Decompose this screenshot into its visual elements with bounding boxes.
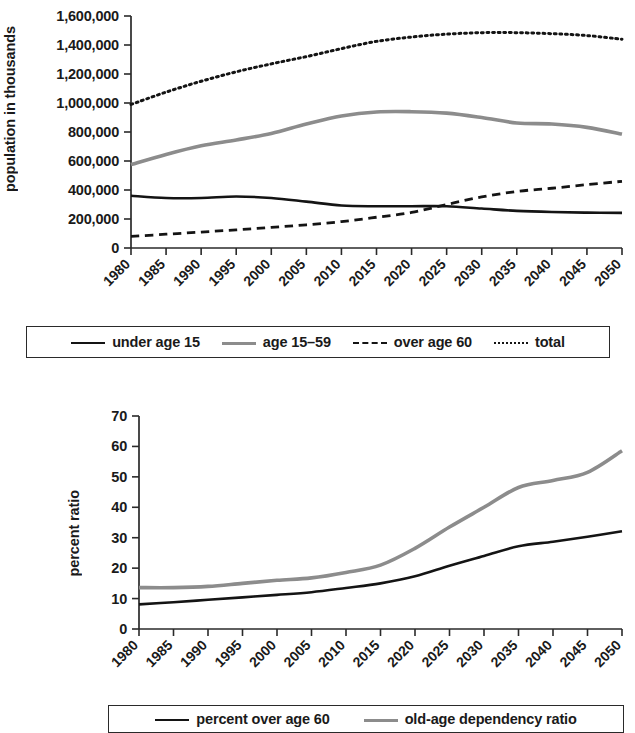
series-line [131,181,622,236]
y-axis-tick-label: 1,600,000 [56,8,119,24]
legend-item-label: percent over age 60 [196,711,329,727]
x-axis-tick-label: 1985 [135,256,168,289]
x-axis-tick-label: 2040 [521,256,554,289]
series-line [131,33,622,105]
legend-item-label: over age 60 [394,334,472,350]
legend-line-icon [364,713,398,725]
series-line [139,451,622,588]
x-axis-tick-label: 2010 [310,256,343,289]
y-axis-tick-label: 400,000 [68,182,119,198]
x-axis-tick-label: 2000 [240,256,273,289]
x-axis-tick-label: 2010 [315,637,348,670]
x-axis-tick-label: 2015 [349,637,382,670]
y-axis-tick-label: 1,000,000 [56,95,119,111]
y-axis-tick-label: 1,400,000 [56,37,119,53]
legend-item-label: under age 15 [112,334,200,350]
y-axis-tick-label: 30 [111,530,127,546]
y-axis-tick-label: 60 [111,438,127,454]
y-axis-tick-label: 40 [111,499,127,515]
y-axis-tick-label: 0 [119,621,127,637]
percent-ratio-chart-legend: percent over age 60 old-age dependency r… [108,705,624,733]
legend-item: total [494,334,565,350]
legend-line-icon [353,336,387,348]
x-axis-tick-label: 2005 [275,256,308,289]
x-axis-tick-label: 2020 [384,637,417,670]
y-axis-tick-label: 10 [111,591,127,607]
legend-line-icon [494,336,528,348]
x-axis-tick-label: 2025 [418,637,451,670]
legend-item: old-age dependency ratio [364,711,577,727]
x-axis-tick-label: 2050 [591,637,624,670]
legend-item: over age 60 [353,334,472,350]
legend-line-icon [155,713,189,725]
legend-item: age 15–59 [222,334,331,350]
x-axis-tick-label: 1985 [142,637,175,670]
x-axis-tick-label: 2035 [487,637,520,670]
legend-line-icon [71,336,105,348]
x-axis-tick-label: 2030 [450,256,483,289]
x-axis-tick-label: 2045 [556,637,589,670]
x-axis-tick-label: 1995 [211,637,244,670]
x-axis-tick-label: 1990 [170,256,203,289]
y-axis-tick-label: 50 [111,469,127,485]
legend-item-label: total [535,334,565,350]
legend-item: under age 15 [71,334,200,350]
population-chart-legend: under age 15 age 15–59 over age 60 total [26,326,610,358]
x-axis-tick-label: 2000 [246,637,279,670]
x-axis-tick-label: 2045 [556,256,589,289]
series-line [139,531,622,604]
y-axis-tick-label: 20 [111,560,127,576]
x-axis-tick-label: 2005 [280,637,313,670]
x-axis-tick-label: 1980 [100,256,133,289]
percent-ratio-chart-svg: 7060504030201001980198519901995200020052… [0,392,635,702]
series-line [131,111,622,164]
x-axis-tick-label: 2020 [380,256,413,289]
x-axis-tick-label: 1980 [108,637,141,670]
x-axis-tick-label: 2025 [415,256,448,289]
population-chart-plot: 1,600,0001,400,0001,200,0001,000,000800,… [0,0,635,322]
x-axis-tick-label: 1995 [205,256,238,289]
x-axis-tick-label: 2035 [486,256,519,289]
legend-item-label: old-age dependency ratio [405,711,577,727]
x-axis-tick-label: 2030 [453,637,486,670]
legend-item: percent over age 60 [155,711,329,727]
y-axis-tick-label: 1,200,000 [56,66,119,82]
x-axis-tick-label: 2015 [345,256,378,289]
y-axis-tick-label: 0 [111,240,119,256]
y-axis-tick-label: 200,000 [68,211,119,227]
x-axis-tick-label: 2040 [522,637,555,670]
x-axis-tick-label: 2050 [591,256,624,289]
series-line [131,196,622,213]
percent-ratio-chart-figure: percent ratio 70605040302010019801985199… [0,392,635,732]
y-axis-tick-label: 600,000 [68,153,119,169]
percent-ratio-chart-plot: 7060504030201001980198519901995200020052… [0,392,635,702]
y-axis-tick-label: 70 [111,408,127,424]
legend-line-icon [222,336,256,348]
legend-item-label: age 15–59 [263,334,331,350]
population-chart-svg: 1,600,0001,400,0001,200,0001,000,000800,… [0,0,635,322]
x-axis-tick-label: 1990 [177,637,210,670]
y-axis-tick-label: 800,000 [68,124,119,140]
population-chart-figure: population in thousands 1,600,0001,400,0… [0,0,635,370]
